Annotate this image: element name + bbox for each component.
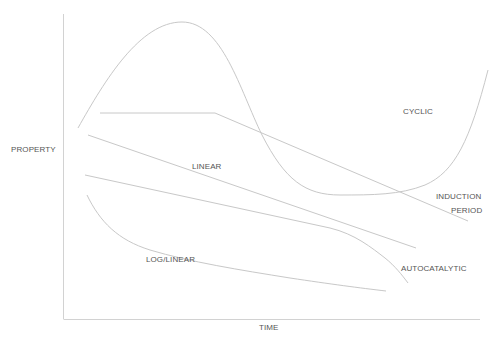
plot-area xyxy=(0,0,492,341)
chart: PROPERTY TIME CYCLIC LINEAR INDUCTION PE… xyxy=(0,0,492,341)
curve-linear xyxy=(88,135,416,248)
curve-label-autocatalytic: AUTOCATALYTIC xyxy=(401,265,467,273)
curve-label-cyclic: CYCLIC xyxy=(403,108,433,116)
curve-label-induction-line1: INDUCTION xyxy=(436,193,481,201)
curve-log-linear xyxy=(87,195,386,291)
curve-label-induction-line2: PERIOD xyxy=(451,207,482,215)
y-axis-label: PROPERTY xyxy=(11,146,56,154)
x-axis-label: TIME xyxy=(259,324,279,332)
curve-label-linear: LINEAR xyxy=(192,163,222,171)
curve-induction-period xyxy=(100,113,468,221)
curve-label-log-linear: LOG/LINEAR xyxy=(146,256,195,264)
